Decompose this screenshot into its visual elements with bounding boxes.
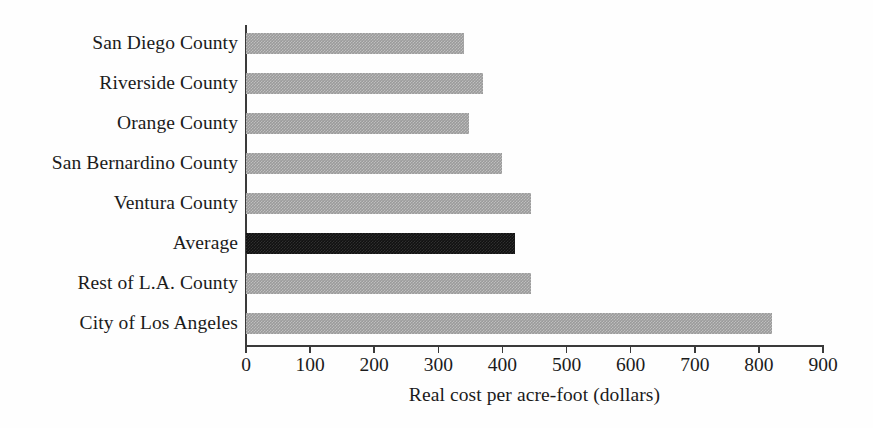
bar-row <box>246 265 823 303</box>
bar-orange-county <box>246 113 469 134</box>
x-tick-mark <box>373 345 375 353</box>
category-label: San Bernardino County <box>0 152 238 173</box>
category-axis-labels: San Diego CountyRiverside CountyOrange C… <box>0 25 238 345</box>
x-tick-label: 600 <box>601 353 661 377</box>
x-tick-label: 0 <box>216 353 276 377</box>
category-label: Ventura County <box>0 192 238 213</box>
x-tick-label: 200 <box>344 353 404 377</box>
bar-row <box>246 105 823 143</box>
x-axis-line <box>245 345 824 347</box>
x-tick-label: 800 <box>729 353 789 377</box>
category-label: Average <box>0 232 238 253</box>
plot-area <box>246 25 823 345</box>
category-label: City of Los Angeles <box>0 312 238 333</box>
bar-row <box>246 25 823 63</box>
x-tick-mark <box>502 345 504 353</box>
bar-rest-of-l-a-county <box>246 273 531 294</box>
category-label: Orange County <box>0 112 238 133</box>
x-tick-mark <box>309 345 311 353</box>
x-tick-label: 500 <box>537 353 597 377</box>
x-tick-label: 700 <box>665 353 725 377</box>
bar-ventura-county <box>246 193 531 214</box>
bar-city-of-los-angeles <box>246 313 772 334</box>
category-label: Riverside County <box>0 72 238 93</box>
x-tick-label: 300 <box>408 353 468 377</box>
bar-row <box>246 305 823 343</box>
x-tick-mark <box>822 345 824 353</box>
x-tick-mark <box>694 345 696 353</box>
x-tick-mark <box>566 345 568 353</box>
x-tick-label: 400 <box>472 353 532 377</box>
bar-san-diego-county <box>246 33 464 54</box>
bar-row <box>246 65 823 103</box>
x-axis-title: Real cost per acre-foot (dollars) <box>246 384 823 406</box>
x-tick-mark <box>758 345 760 353</box>
x-tick-label: 900 <box>793 353 853 377</box>
x-tick-mark <box>245 345 247 353</box>
x-tick-mark <box>438 345 440 353</box>
category-label: Rest of L.A. County <box>0 272 238 293</box>
x-tick-mark <box>630 345 632 353</box>
category-label: San Diego County <box>0 32 238 53</box>
bar-riverside-county <box>246 73 483 94</box>
bar-row <box>246 185 823 223</box>
bar-average <box>246 233 515 254</box>
x-tick-label: 100 <box>280 353 340 377</box>
bar-chart: San Diego CountyRiverside CountyOrange C… <box>0 0 873 428</box>
bar-san-bernardino-county <box>246 153 502 174</box>
bar-row <box>246 225 823 263</box>
bar-row <box>246 145 823 183</box>
